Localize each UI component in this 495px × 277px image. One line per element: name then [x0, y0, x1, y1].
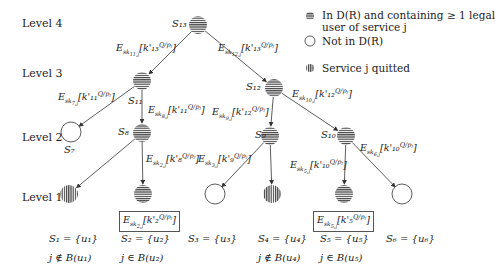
membership-label: j ∉ B(u₄) — [258, 253, 300, 263]
edge-label: Esk8,j[k'₁₁Q/pⱼ] — [148, 104, 205, 119]
leaf-set-label: S₄ = {u₄} — [258, 234, 307, 244]
empty-circle-icon — [61, 122, 81, 142]
leaf-set-label: S₅ = {u₅} — [320, 234, 369, 244]
legend-text: In D(R) and containing ≥ 1 legal — [322, 10, 495, 21]
horizontal-stripe-circle-icon — [134, 185, 152, 203]
leaf-set-label: S₃ = {u₃} — [188, 234, 237, 244]
boxed-key-label: Esk2,j[k'₂Q/pⱼ] — [119, 211, 180, 232]
legend-item-in-dr: In D(R) and containing ≥ 1 legal user of… — [322, 10, 495, 32]
horizontal-stripe-circle-icon — [337, 127, 355, 145]
node-label: S₇ — [64, 145, 75, 155]
edge-S8-L1 — [77, 139, 135, 188]
level-label: Level 1 — [22, 192, 63, 203]
level-label: Level 4 — [22, 18, 63, 29]
horizontal-stripe-circle-icon — [265, 79, 283, 97]
edge-label: Esk5,j[k'₁₀Q/pⱼ] — [290, 159, 347, 174]
empty-circle-icon — [305, 36, 315, 46]
node-label: S₁₀ — [321, 130, 336, 140]
leaf-set-label: S₆ = {u₆} — [386, 234, 435, 244]
node-label: S₁₂ — [246, 82, 261, 92]
edge-label: Esk9,j[k'₁₂Q/pⱼ] — [212, 106, 269, 121]
horizontal-stripe-circle-icon — [133, 124, 151, 142]
membership-label: j ∉ B(u₁) — [49, 253, 91, 263]
horizontal-stripe-circle-icon — [189, 16, 207, 34]
horizontal-stripe-circle-icon — [335, 185, 353, 203]
node-label: S₁₃ — [172, 19, 187, 29]
legend-item-not-in-dr: Not in D(R) — [322, 36, 383, 47]
empty-circle-icon — [392, 184, 412, 204]
boxed-key-label: Esk5,j[k'₅Q/pⱼ] — [313, 211, 374, 232]
edge-S9-L4 — [270, 145, 271, 184]
edge-S8-L2 — [142, 142, 143, 184]
vertical-stripe-circle-icon — [263, 185, 281, 203]
edge-label: Esk12,j[k'₁₃Q/pⱼ] — [218, 42, 278, 57]
edge-label: Esk6,j[k'₁₀Q/pⱼ] — [360, 142, 417, 157]
node-label: S₉ — [255, 130, 266, 140]
leaf-set-label: S₁ = {u₁} — [49, 234, 98, 244]
membership-label: j ∈ B(u₅) — [320, 253, 362, 263]
horizontal-stripe-circle-icon — [306, 12, 314, 20]
empty-circle-icon — [205, 184, 225, 204]
level-label: Level 2 — [22, 132, 63, 143]
horizontal-stripe-circle-icon — [133, 72, 151, 90]
vertical-stripe-circle-icon — [306, 64, 314, 72]
legend-text-line2: user of service j — [322, 22, 495, 33]
edge-label: Esk3,j[k'₉Q/pⱼ] — [198, 153, 251, 168]
edge-label: Esk7,j[k'₁₁Q/pⱼ] — [58, 91, 115, 106]
node-label: S₈ — [118, 127, 129, 137]
legend-item-quitted: Service j quitted — [322, 63, 410, 74]
vertical-stripe-circle-icon — [60, 185, 78, 203]
edge-label: Esk11,j[k'₁₃Q/pⱼ] — [116, 42, 176, 57]
node-label: S₁₁ — [128, 96, 143, 106]
level-label: Level 3 — [22, 68, 63, 79]
edge-S12-S9 — [271, 97, 273, 126]
edge-label: Esk10,j[k'₁₂Q/pⱼ] — [292, 88, 352, 103]
legend-icons — [305, 12, 315, 72]
edge-label: Esk2,j[k'₈Q/pⱼ] — [146, 153, 199, 168]
membership-label: j ∈ B(u₂) — [121, 253, 163, 263]
leaf-set-label: S₂ = {u₂} — [121, 234, 170, 244]
